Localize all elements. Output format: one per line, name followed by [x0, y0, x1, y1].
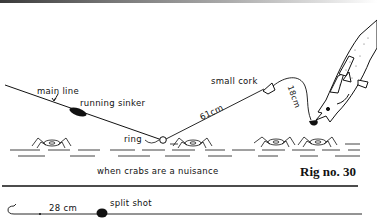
main-line-label: main line	[37, 86, 79, 96]
rig-number-title: Rig no. 30	[300, 164, 356, 180]
crab-icon	[173, 138, 212, 148]
split-shot-icon	[97, 209, 108, 218]
ring-icon	[160, 137, 167, 144]
crab-icon	[254, 137, 295, 147]
figure-caption: when crabs are a nuisance	[97, 166, 218, 176]
hook-bait-icon	[309, 120, 318, 126]
running-sinker-label: running sinker	[80, 98, 145, 108]
small-cork-label: small cork	[211, 76, 258, 86]
detail-length-label: 28 cm	[49, 203, 77, 213]
small-cork-icon	[263, 83, 275, 94]
rig-diagram	[0, 0, 377, 224]
sea-floor	[10, 144, 360, 156]
ring-pointer	[145, 140, 159, 143]
crab-icon	[32, 138, 71, 148]
small-knot-icon	[39, 213, 41, 215]
fish-icon	[316, 20, 377, 122]
crab-icon	[298, 137, 337, 147]
split-shot-label: split shot	[110, 198, 152, 208]
ring-label: ring	[124, 134, 142, 144]
